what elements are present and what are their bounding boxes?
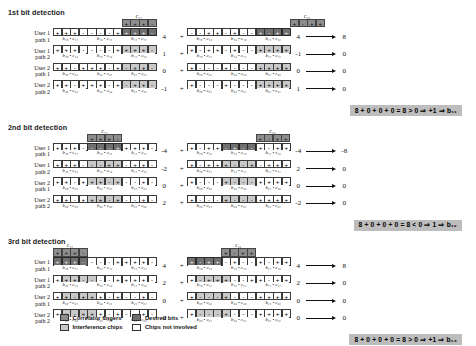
correlation-value: -4 [290,147,306,155]
brace-group: b₂₃ • c₂₁b₂₂ • c₂₁b₂₁ • c₂₁ [187,89,290,98]
brace: b₁₂ • c₁₁ [223,168,255,172]
brace-label: b₁₁ • c₁₂ [123,282,155,287]
brace-label: b₂₂ • c₂₁ [223,203,255,208]
brace-label: b₂₃ • c₂₂ [188,185,220,190]
brace: b₂₃ • c₂₁ [54,71,86,75]
brace-label: b₁₃ • c₁₁ [54,36,86,41]
brace-label: b₂₂ • c₂₁ [88,185,120,190]
brace-label: b₁₂ • c₁₂ [88,168,120,173]
brace: b₁₂ • c₁₂ [88,168,120,172]
brace: b₂₁ • c₂₁ [257,89,289,93]
brace: b₁₃ • c₁₂ [54,54,86,58]
finger-chip: - [148,19,157,27]
combined-output-value: 0 [336,85,352,93]
brace: b₂₁ • c₂₁ [123,71,155,75]
brace: b₁₃ • c₁₂ [54,283,86,287]
row-label: User 1 path 1 [8,30,53,43]
brace: b₁₃ • c₁₁ [54,36,86,40]
detection-row: ++-+++--++-++b₁₃ • c₁₁b₁₂ • c₁₁b₁₁ • c₁₁… [176,275,352,292]
right-block: +-++c₁₂++-++-+--+-++b₁₃ • c₁₂b₁₂ • c₁₂b₁… [176,134,352,213]
plus-operator: + [176,297,187,305]
brace-label: b₂₃ • c₂₂ [54,203,86,208]
brace: b₁₂ • c₁₁ [88,151,120,155]
plus-operator: + [176,279,187,287]
correlator-finger-strip: +++- [122,19,156,27]
brace-label: b₂₃ • c₂₁ [54,185,86,190]
brace-label: b₁₂ • c₁₂ [223,150,255,155]
brace-label: b₂₃ • c₂₂ [188,300,220,305]
brace: b₂₁ • c₂₂ [123,89,155,93]
brace-label: b₁₂ • c₁₂ [223,36,255,41]
brace: b₁₁ • c₁₂ [123,54,155,58]
brace-label: b₂₂ • c₂₁ [88,71,120,76]
brace-group: b₂₃ • c₂₁b₂₂ • c₂₁b₂₁ • c₂₁ [53,186,156,195]
brace-label: b₁₂ • c₁₁ [88,150,120,155]
correlation-value: -1 [290,50,306,58]
brace-label: b₂₁ • c₂₂ [257,71,289,76]
brace: b₂₂ • c₂₁ [88,186,120,190]
legend-label: Desired bits [145,315,178,321]
brace-group: b₂₃ • c₂₂b₂₂ • c₂₂b₂₁ • c₂₂ [187,300,290,309]
brace-group: b₂₃ • c₂₂b₂₂ • c₂₂b₂₁ • c₂₂ [187,71,290,80]
brace: b₂₃ • c₂₂ [188,186,220,190]
brace: b₁₂ • c₁₁ [88,36,120,40]
brace: b₁₂ • c₁₂ [88,54,120,58]
brace: b₁₃ • c₁₁ [54,151,86,155]
brace: b₁₂ • c₁₂ [223,151,255,155]
correlation-value: 0 [290,182,306,190]
detection-row: User 1 path 2+++---++-++-b₁₃ • c₁₂b₁₂ • … [8,160,172,177]
brace: b₂₃ • c₂₂ [188,300,220,304]
brace: b₁₂ • c₁₁ [88,266,120,270]
correlation-value: 2 [156,199,172,207]
brace: b₂₃ • c₂₁ [188,89,220,93]
brace: b₁₁ • c₁₁ [123,151,155,155]
detection-row: ++---+---++++b₂₃ • c₂₁b₂₂ • c₂₁b₂₁ • c₂₁… [176,80,352,97]
brace: b₁₁ • c₁₂ [257,36,289,40]
brace: b₁₂ • c₁₁ [223,283,255,287]
brace-label: b₂₃ • c₂₁ [54,300,86,305]
brace: b₂₁ • c₂₂ [257,300,289,304]
brace: b₁₂ • c₁₂ [223,36,255,40]
detection-row: ++---+---++++b₂₃ • c₂₂b₂₂ • c₂₂b₂₁ • c₂₂… [176,177,352,194]
brace-group: b₁₃ • c₁₂b₁₂ • c₁₂b₁₁ • c₁₂ [187,151,290,160]
combined-output-value: 0 [336,279,352,287]
brace-label: b₁₁ • c₁₂ [123,168,155,173]
finger-chip: - [113,134,122,142]
brace: b₁₃ • c₁₂ [188,36,220,40]
legend-item: Chips not involved [132,324,196,331]
brace-group: b₁₃ • c₁₂b₁₂ • c₁₂b₁₁ • c₁₂ [187,266,290,275]
finger-chip: + [281,134,290,142]
sum-arrow [306,299,336,303]
correlation-value: 0 [290,67,306,75]
brace-label: b₁₃ • c₁₂ [54,168,86,173]
row-label: User 1 path 1 [8,259,53,272]
row-label: User 2 path 1 [8,65,53,78]
brace: b₂₁ • c₂₁ [123,186,155,190]
decision-result-bar: 8 + 0 + 0 + 0 = 8 > 0 ⇒ +1 ⇒ b₁₁ [350,105,462,116]
brace-label: b₂₁ • c₂₂ [123,88,155,93]
row-label: User 2 path 2 [8,197,53,210]
sum-arrow [306,264,336,268]
brace-label: b₁₁ • c₁₁ [257,282,289,287]
brace: b₁₁ • c₁₁ [123,266,155,270]
correlation-value: 4 [156,33,172,41]
combined-output-value: 0 [336,314,352,322]
brace-label: b₁₂ • c₁₁ [223,168,255,173]
detection-row: User 1 path 1+++----++++-b₁₃ • c₁₁b₁₂ • … [8,257,172,274]
brace-group: b₁₃ • c₁₂b₁₂ • c₁₂b₁₁ • c₁₂ [187,36,290,45]
legend-host: Correlator fingersInterference chipsDesi… [60,314,207,331]
brace-label: b₂₂ • c₂₂ [223,300,255,305]
brace-label: b₁₁ • c₁₁ [257,53,289,58]
sum-arrow [306,281,336,285]
brace: b₂₂ • c₂₂ [223,71,255,75]
section-title: 2nd bit detection [8,123,476,132]
decision-result-bar: 8 + 0 + 0 + 0 = 8 < 0 ⇒ 1 ⇒ b₁₂ [354,220,462,231]
left-block: +++-c₁₁User 1 path 1+++----++++-b₁₃ • c₁… [8,19,172,98]
detection-row: ++-+++--+-+++b₁₃ • c₁₁b₁₂ • c₁₁b₁₁ • c₁₁… [176,160,352,177]
brace-label: b₁₂ • c₁₁ [88,265,120,270]
bit-detection-section: 2nd bit detection+++-c₁₁User 1 path 1+++… [8,123,476,232]
brace-label: b₂₃ • c₂₁ [54,71,86,76]
brace-label: b₁₃ • c₁₁ [188,282,220,287]
correlator-finger-strip: +-++ [221,248,255,256]
sum-arrow [306,52,336,56]
